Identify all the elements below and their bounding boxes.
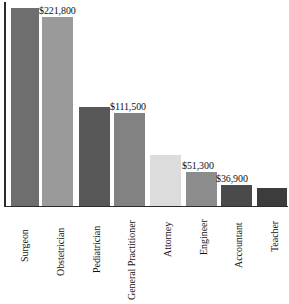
x-tick-label-attorney: Attorney (163, 222, 173, 257)
plot-area: $221,800 $111,500 $51,300 $36,900 Surgeo… (0, 0, 289, 304)
y-axis-line (4, 2, 6, 206)
x-tick-label-teacher: Teacher (270, 221, 280, 252)
bar-surgeon[interactable] (11, 8, 39, 206)
x-tick-label-accountant: Accountant (234, 222, 244, 268)
bar-attorney[interactable] (150, 155, 181, 206)
value-label-general-practitioner: $111,500 (110, 101, 146, 112)
bar-teacher[interactable] (257, 188, 287, 206)
bar-obstetrician[interactable] (42, 17, 73, 206)
bar-chart: $221,800 $111,500 $51,300 $36,900 Surgeo… (0, 0, 289, 304)
x-tick-label-engineer: Engineer (199, 219, 209, 255)
x-tick-label-general-practitioner: General Practitioner (127, 220, 137, 300)
bar-engineer[interactable] (186, 172, 217, 206)
value-label-engineer: $51,300 (182, 160, 214, 171)
x-tick-label-surgeon: Surgeon (20, 229, 30, 262)
bar-accountant[interactable] (221, 185, 252, 206)
bar-general-practitioner[interactable] (114, 113, 145, 206)
x-tick-label-obstetrician: Obstetrician (56, 228, 66, 276)
value-label-obstetrician: $221,800 (39, 5, 76, 16)
x-tick-label-pediatrician: Pediatrician (92, 226, 102, 273)
value-label-accountant: $36,900 (216, 173, 248, 184)
bar-pediatrician[interactable] (79, 107, 110, 206)
